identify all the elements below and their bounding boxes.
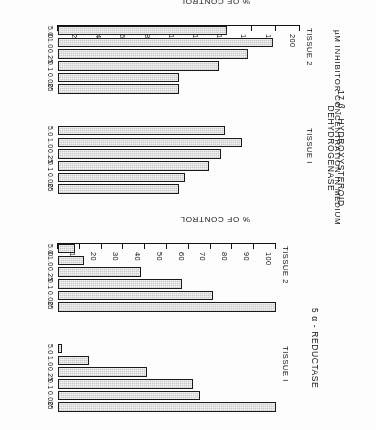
bar [58, 379, 193, 389]
panel-5alpha-reductase: 0102030405060708090100% OF CONTROL00.025… [0, 216, 376, 430]
category-label: 0.025 [47, 291, 54, 310]
bar [58, 85, 179, 95]
value-axis-tick [299, 26, 300, 31]
category-label: 5.0 [47, 344, 54, 354]
value-axis-tick [275, 26, 276, 31]
category-label: 5.0 [47, 26, 54, 36]
bar [58, 185, 179, 195]
value-axis-title: % OF CONTROL [180, 215, 250, 224]
bar [58, 73, 179, 83]
category-label: 0.25 [47, 267, 54, 281]
value-axis-tick [144, 244, 145, 249]
bar [58, 267, 141, 277]
value-axis-tick [101, 244, 102, 249]
group-label-tissue-2: TISSUE 2 [281, 246, 290, 284]
group-label-tissue-i: TISSUE I [281, 346, 290, 382]
group-label-tissue-i: TISSUE I [305, 128, 314, 164]
category-label: 5.0 [47, 244, 54, 254]
value-axis-tick [251, 26, 252, 31]
value-axis-tick [253, 244, 254, 249]
category-label: 0.025 [47, 391, 54, 410]
panel-17beta-hsd: 020406080100120140160180200% OF CONTROL0… [0, 0, 376, 216]
category-label: 1.0 [47, 138, 54, 148]
value-axis-tick-label: 60 [177, 252, 186, 261]
value-axis-tick-label: 90 [242, 252, 251, 261]
value-axis-tick-label: 100 [264, 252, 273, 265]
value-axis-tick [188, 244, 189, 249]
value-axis-tick [122, 244, 123, 249]
bar [58, 303, 276, 313]
value-axis-tick-label: 50 [155, 252, 164, 261]
category-label: 0.025 [47, 173, 54, 192]
value-axis-tick-label: 70 [198, 252, 207, 261]
value-axis-tick-label: 200 [288, 34, 297, 47]
bar [58, 291, 213, 301]
bar [58, 126, 225, 136]
value-axis-tick [79, 244, 80, 249]
value-axis-tick [166, 244, 167, 249]
value-axis-title: % OF CONTROL [180, 0, 250, 6]
value-axis-tick [275, 244, 276, 249]
category-label: 1.0 [47, 256, 54, 266]
value-axis-tick-label: 80 [220, 252, 229, 261]
bar [58, 279, 182, 289]
bar [58, 356, 89, 366]
bar [58, 149, 221, 159]
value-axis-tick-label: 20 [89, 252, 98, 261]
category-label: 1.0 [47, 38, 54, 48]
value-axis-tick-label: 30 [111, 252, 120, 261]
x-axis-title: µM INHIBITOR CONCENTRATION IN MEDIUM [333, 30, 342, 225]
value-axis-tick [231, 244, 232, 249]
bar [58, 38, 273, 48]
bar [58, 138, 242, 148]
bar [58, 49, 248, 59]
bar [58, 391, 200, 401]
value-axis-tick [210, 244, 211, 249]
category-label: 1.0 [47, 356, 54, 366]
bar [58, 367, 147, 377]
category-label: 0.25 [47, 49, 54, 63]
figure-canvas: 0102030405060708090100% OF CONTROL00.025… [0, 0, 376, 430]
value-axis-tick-label: 40 [133, 252, 142, 261]
bar [58, 244, 75, 254]
category-label: 0.025 [47, 73, 54, 92]
bar [58, 161, 209, 171]
group-label-tissue-2: TISSUE 2 [305, 28, 314, 66]
bar [58, 256, 84, 266]
bar [58, 344, 62, 354]
bar [58, 403, 276, 413]
panel-title: 5 α - REDUCTASE [310, 308, 320, 388]
category-label: 5.0 [47, 126, 54, 136]
category-label: 0.25 [47, 149, 54, 163]
bar [58, 173, 185, 183]
bar [58, 26, 227, 36]
category-label: 0.25 [47, 367, 54, 381]
bar [58, 61, 219, 71]
